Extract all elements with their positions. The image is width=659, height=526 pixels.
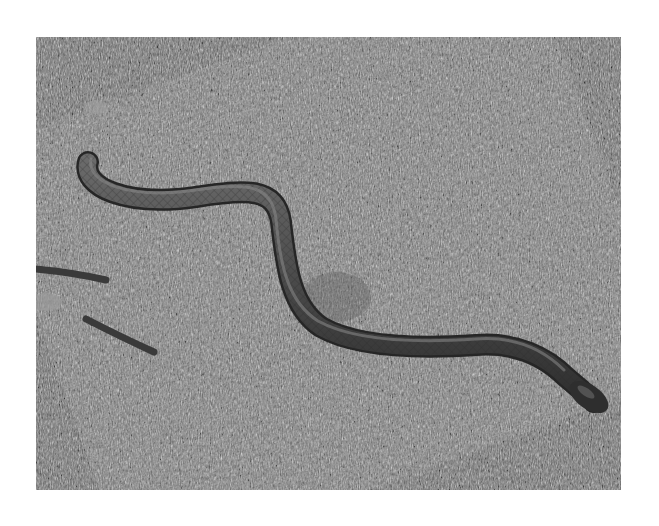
- snake-photograph: [36, 37, 621, 490]
- leaf: [84, 100, 108, 114]
- photo-canvas: [36, 37, 621, 490]
